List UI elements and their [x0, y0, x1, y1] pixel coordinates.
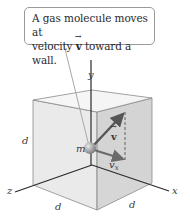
- callout-line-2: velocity v toward a wall.: [32, 39, 148, 67]
- edge-label-depth: d: [55, 201, 61, 212]
- velocity-vector-symbol: v: [76, 39, 82, 53]
- gas-molecule-cube-diagram: A gas molecule moves at velocity v towar…: [0, 0, 190, 219]
- x-axis-label: x: [172, 185, 178, 196]
- gas-molecule: [84, 142, 96, 154]
- velocity-label: v: [111, 131, 117, 142]
- y-axis-label: y: [88, 69, 94, 80]
- callout-box: A gas molecule moves at velocity v towar…: [24, 7, 155, 45]
- velocity-x-label: vx: [109, 159, 119, 170]
- mass-label: m: [76, 143, 85, 154]
- callout-line-1: A gas molecule moves at: [32, 11, 148, 39]
- edge-label-width: d: [129, 199, 135, 210]
- z-axis-label: z: [7, 185, 12, 196]
- cube-front-left-face: [33, 100, 97, 210]
- edge-label-height: d: [22, 135, 28, 146]
